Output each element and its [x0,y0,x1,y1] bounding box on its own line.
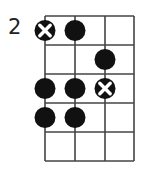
fret-grid [0,0,148,174]
root-x-marker-icon [35,20,56,41]
note-dot-icon [65,78,86,99]
note-dot-icon [95,49,116,70]
note-dot-icon [35,78,56,99]
root-x-marker-icon [95,78,116,99]
note-dot-icon [65,107,86,128]
note-dot-icon [35,107,56,128]
note-dot-icon [65,20,86,41]
fretboard-diagram: 2 [0,0,148,174]
